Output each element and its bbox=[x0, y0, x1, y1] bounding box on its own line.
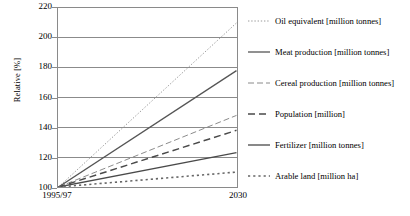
y-axis-tick: 160 bbox=[0, 93, 59, 102]
plot-area bbox=[57, 7, 238, 188]
legend-line-swatch bbox=[248, 170, 270, 182]
legend-item: Population [million] bbox=[248, 107, 408, 121]
chart-figure: Relative [%] 220200180160140120100 1995/… bbox=[0, 0, 410, 216]
y-axis-tick: 140 bbox=[0, 123, 59, 132]
chart-legend: Oil equivalent [million tonnes]Meat prod… bbox=[248, 7, 408, 188]
series-line bbox=[58, 172, 236, 187]
legend-line-swatch bbox=[248, 46, 270, 58]
y-axis-tick: 200 bbox=[0, 32, 59, 41]
series-line bbox=[58, 130, 236, 187]
y-axis-tick: 120 bbox=[0, 153, 59, 162]
legend-line-swatch bbox=[248, 139, 270, 151]
legend-item: Meat production [million tonnes] bbox=[248, 45, 408, 59]
legend-line-swatch bbox=[248, 77, 270, 89]
series-line bbox=[58, 115, 236, 187]
legend-line-swatch bbox=[248, 108, 270, 120]
legend-item-label: Fertilizer [million tonnes] bbox=[275, 140, 364, 150]
y-axis-tick: 180 bbox=[0, 62, 59, 71]
legend-item: Oil equivalent [million tonnes] bbox=[248, 14, 408, 28]
series-line bbox=[58, 23, 236, 187]
legend-item: Fertilizer [million tonnes] bbox=[248, 138, 408, 152]
legend-item: Arable land [million ha] bbox=[248, 169, 408, 183]
series-lines bbox=[58, 8, 237, 187]
y-axis-tick-mark bbox=[52, 188, 57, 189]
x-axis-tick: 1995/97 bbox=[27, 190, 87, 200]
x-axis-tick: 2030 bbox=[208, 190, 268, 200]
y-axis-tick: 220 bbox=[0, 2, 59, 11]
legend-item-label: Population [million] bbox=[275, 109, 345, 119]
legend-item-label: Oil equivalent [million tonnes] bbox=[275, 16, 381, 26]
legend-item: Cereal production [million tonnes] bbox=[248, 76, 408, 90]
legend-item-label: Cereal production [million tonnes] bbox=[275, 78, 394, 88]
y-axis-title: Relative [%] bbox=[12, 30, 22, 130]
legend-line-swatch bbox=[248, 15, 270, 27]
legend-item-label: Meat production [million tonnes] bbox=[275, 47, 389, 57]
legend-item-label: Arable land [million ha] bbox=[275, 171, 358, 181]
